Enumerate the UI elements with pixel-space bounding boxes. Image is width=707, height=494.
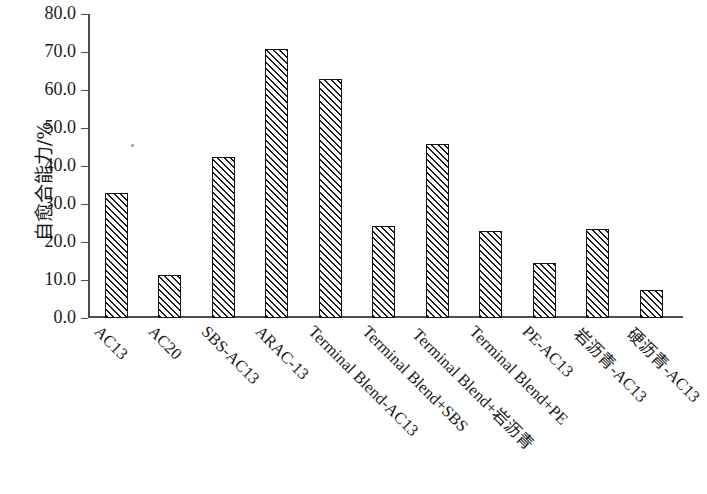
x-axis-label: Terminal Blend+PE — [464, 322, 571, 429]
bar — [533, 263, 556, 318]
y-axis-tick: 0.0 — [81, 318, 88, 319]
scan-artifact-dot — [131, 144, 134, 147]
bar — [426, 144, 449, 318]
y-axis-tick-label: 30.0 — [45, 193, 77, 214]
y-axis-tick-label: 80.0 — [45, 3, 77, 24]
x-axis-labels: AC13AC20SBS-AC13ARAC-13Terminal Blend-AC… — [88, 322, 688, 492]
bar — [640, 290, 663, 318]
y-axis-tick: 20.0 — [81, 242, 88, 243]
y-axis-tick-label: 0.0 — [54, 307, 77, 328]
bar — [479, 231, 502, 318]
y-axis-tick: 30.0 — [81, 204, 88, 205]
x-axis-label: AC13 — [90, 322, 132, 364]
y-axis-tick: 50.0 — [81, 128, 88, 129]
y-axis-tick: 80.0 — [81, 14, 88, 15]
bar — [105, 193, 128, 318]
x-axis-label: AC20 — [143, 322, 185, 364]
y-axis-tick: 60.0 — [81, 90, 88, 91]
bar — [265, 49, 288, 318]
bar — [158, 275, 181, 318]
y-axis-tick-label: 60.0 — [45, 79, 77, 100]
bar — [372, 226, 395, 318]
y-axis-tick: 10.0 — [81, 280, 88, 281]
y-axis-tick-label: 40.0 — [45, 155, 77, 176]
bar — [586, 229, 609, 318]
y-axis-tick: 70.0 — [81, 52, 88, 53]
y-axis-tick: 40.0 — [81, 166, 88, 167]
bar — [319, 79, 342, 318]
bar-series — [88, 14, 683, 318]
x-axis-label-text: Terminal Blend+PE — [464, 322, 571, 429]
bar-chart: 自愈合能力/% 80.070.060.050.040.030.020.010.0… — [0, 0, 707, 494]
y-axis-tick-label: 50.0 — [45, 117, 77, 138]
y-axis-tick-label: 10.0 — [45, 269, 77, 290]
plot-area: 80.070.060.050.040.030.020.010.00.0 — [88, 14, 683, 318]
y-axis-tick-label: 20.0 — [45, 231, 77, 252]
bar — [212, 157, 235, 319]
y-axis-tick-label: 70.0 — [45, 41, 77, 62]
x-axis-label-text: AC20 — [143, 322, 185, 364]
x-axis-label-text: AC13 — [90, 322, 132, 364]
